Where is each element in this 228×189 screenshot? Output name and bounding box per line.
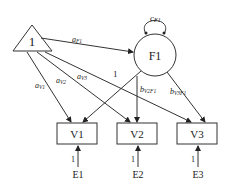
factor-f1: F1 xyxy=(134,34,176,76)
error-e2: 1 E2 xyxy=(131,146,144,180)
path-label-bV2F1: bV2F1 xyxy=(140,85,156,94)
svg-text:1: 1 xyxy=(191,155,195,164)
svg-text:E1: E1 xyxy=(72,169,83,180)
path-label-F1-V1: 1 xyxy=(113,69,118,79)
factor-label: F1 xyxy=(149,49,162,63)
observed-v2: V2 xyxy=(117,123,157,144)
observed-v3: V3 xyxy=(177,123,217,144)
path-diagram: 1 F1 cF1 aF1 aV1 aV2 aV3 1 bV2F1 bV3F1 V… xyxy=(0,0,228,189)
svg-text:V3: V3 xyxy=(190,128,204,140)
path-label-aV3: aV3 xyxy=(77,72,87,81)
path-bV3F1 xyxy=(167,72,205,122)
path-label-aV2: aV2 xyxy=(56,76,66,85)
path-label-bV3F1: bV3F1 xyxy=(170,87,186,96)
constant-label: 1 xyxy=(29,34,36,49)
path-aF1 xyxy=(41,38,133,52)
observed-v1: V1 xyxy=(57,123,97,144)
path-label-aF1: aF1 xyxy=(72,35,82,44)
svg-text:V2: V2 xyxy=(130,128,143,140)
path-aV1 xyxy=(27,52,71,122)
path-label-aV1: aV1 xyxy=(35,81,45,90)
svg-text:V1: V1 xyxy=(70,128,83,140)
svg-text:1: 1 xyxy=(131,155,135,164)
path-aV2 xyxy=(37,52,130,122)
error-e3: 1 E3 xyxy=(191,146,204,180)
svg-text:1: 1 xyxy=(71,155,75,164)
svg-text:E3: E3 xyxy=(192,169,203,180)
error-e1: 1 E1 xyxy=(71,146,84,180)
variance-label: cF1 xyxy=(150,13,161,23)
factor-variance-loop: cF1 xyxy=(144,13,165,35)
constant-triangle: 1 xyxy=(13,25,52,51)
path-F1-V1 xyxy=(83,71,141,122)
svg-text:E2: E2 xyxy=(132,169,143,180)
